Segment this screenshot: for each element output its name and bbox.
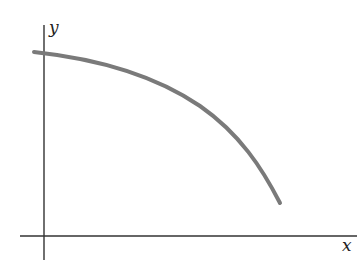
y-axis-label: y bbox=[48, 17, 59, 37]
graph: y x bbox=[0, 0, 357, 272]
curve bbox=[34, 52, 280, 203]
x-axis-label: x bbox=[342, 235, 352, 255]
